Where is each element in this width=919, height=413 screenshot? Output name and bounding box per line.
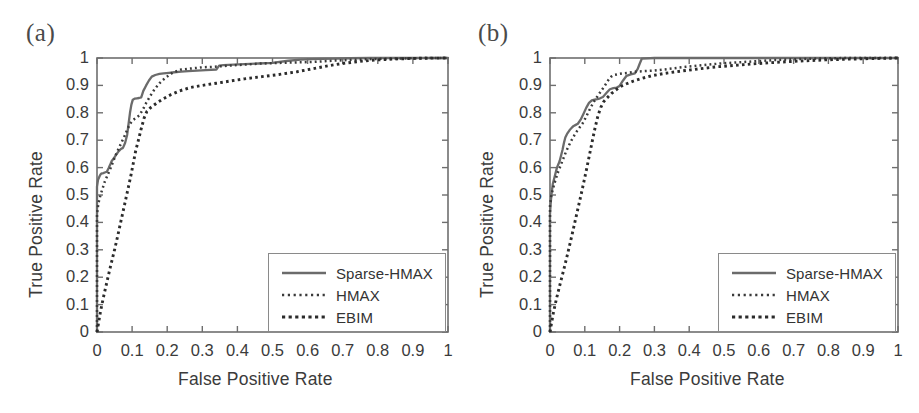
y-tick-label: 0.9 bbox=[504, 75, 542, 94]
y-tick-label: 0.8 bbox=[504, 103, 542, 122]
y-tick-label: 0.2 bbox=[51, 267, 89, 286]
y-tick-label: 0.1 bbox=[51, 295, 89, 314]
y-tick-label: 0.1 bbox=[504, 295, 542, 314]
panel-a-xlabel: False Positive Rate bbox=[178, 369, 333, 390]
y-tick-label: 0.7 bbox=[504, 130, 542, 149]
y-tick-label: 0.6 bbox=[504, 158, 542, 177]
y-tick-label: 0 bbox=[51, 322, 89, 341]
panel-b: (b) True Positive Rate False Positive Ra… bbox=[460, 0, 919, 413]
legend-label: EBIM bbox=[786, 309, 823, 326]
legend-label: Sparse-HMAX bbox=[336, 265, 433, 282]
legend-line-icon bbox=[731, 266, 777, 280]
panel-b-ylabel: True Positive Rate bbox=[477, 151, 498, 298]
legend-entry: Sparse-HMAX bbox=[731, 262, 883, 284]
y-tick-label: 1 bbox=[51, 48, 89, 67]
y-tick-label: 0.8 bbox=[51, 103, 89, 122]
panel-b-xlabel: False Positive Rate bbox=[630, 369, 785, 390]
legend-line-icon bbox=[281, 266, 327, 280]
y-tick-label: 0 bbox=[504, 322, 542, 341]
y-tick-label: 0.4 bbox=[51, 212, 89, 231]
y-tick-label: 0.4 bbox=[504, 212, 542, 231]
legend-line-icon bbox=[731, 288, 777, 302]
legend-entry: HMAX bbox=[731, 284, 830, 306]
legend-entry: HMAX bbox=[281, 284, 380, 306]
legend-label: Sparse-HMAX bbox=[786, 265, 883, 282]
y-tick-label: 0.5 bbox=[504, 185, 542, 204]
legend-line-icon bbox=[281, 288, 327, 302]
legend-line-icon bbox=[281, 310, 327, 324]
y-tick-label: 0.7 bbox=[51, 130, 89, 149]
y-tick-label: 0.3 bbox=[504, 240, 542, 259]
legend-label: EBIM bbox=[336, 309, 373, 326]
legend-entry: EBIM bbox=[281, 306, 373, 328]
panel-a-legend: Sparse-HMAXHMAXEBIM bbox=[268, 253, 446, 332]
legend-label: HMAX bbox=[336, 287, 380, 304]
legend-entry: EBIM bbox=[731, 306, 823, 328]
panel-a-ylabel: True Positive Rate bbox=[26, 151, 47, 298]
y-tick-label: 0.6 bbox=[51, 158, 89, 177]
panel-b-legend: Sparse-HMAXHMAXEBIM bbox=[718, 253, 896, 332]
roc-figure: (a) True Positive Rate False Positive Ra… bbox=[0, 0, 919, 413]
y-tick-label: 0.5 bbox=[51, 185, 89, 204]
legend-entry: Sparse-HMAX bbox=[281, 262, 433, 284]
y-tick-label: 0.2 bbox=[504, 267, 542, 286]
panel-a: (a) True Positive Rate False Positive Ra… bbox=[0, 0, 459, 413]
x-tick-label: 1 bbox=[876, 341, 919, 360]
y-tick-label: 1 bbox=[504, 48, 542, 67]
y-tick-label: 0.3 bbox=[51, 240, 89, 259]
legend-label: HMAX bbox=[786, 287, 830, 304]
y-tick-label: 0.9 bbox=[51, 75, 89, 94]
legend-line-icon bbox=[731, 310, 777, 324]
